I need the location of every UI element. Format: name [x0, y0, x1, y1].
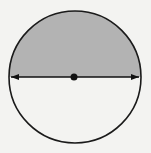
- center-point: [71, 74, 78, 81]
- figure: Circle with diameter and shaded semicirc…: [0, 0, 151, 153]
- shaded-semicircle: [9, 11, 141, 77]
- circle-diagram: [0, 0, 151, 153]
